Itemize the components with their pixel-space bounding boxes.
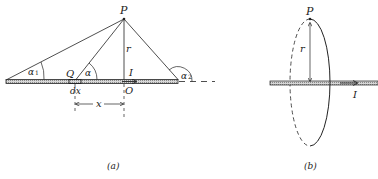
label-alpha-1: α1 (28, 67, 39, 77)
label-current: I (128, 67, 134, 78)
angle-1-arc (41, 62, 44, 80)
caption-b: (b) (304, 161, 317, 171)
point-p-dot-b (309, 18, 312, 21)
point-p-dot (123, 18, 126, 21)
label-r-b: r (300, 43, 306, 54)
label-alpha-2: α2 (181, 71, 192, 81)
label-o: O (125, 85, 133, 96)
label-p: P (119, 4, 128, 17)
label-dx: dx (70, 86, 81, 96)
label-current-b: I (352, 89, 358, 100)
wire-b (270, 81, 378, 85)
panel-a: P r Q α α1 α2 I O dx x (a) (6, 4, 215, 171)
caption-a: (a) (107, 161, 120, 171)
label-x: x (96, 98, 102, 109)
label-q: Q (66, 68, 74, 79)
label-r: r (126, 43, 132, 54)
wire (6, 80, 178, 84)
label-p-b: P (305, 5, 314, 18)
panel-b: P r I (b) (270, 5, 378, 171)
label-alpha: α (85, 68, 91, 78)
line-p-to-q (76, 19, 124, 80)
figure: P r Q α α1 α2 I O dx x (a) P r I (b) (0, 0, 378, 179)
